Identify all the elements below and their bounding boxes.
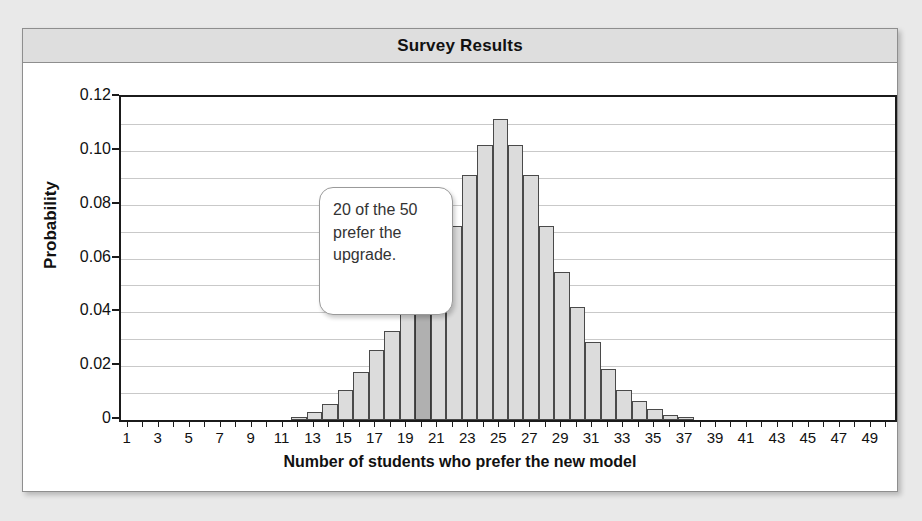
y-tick-mark: [112, 94, 119, 96]
x-tick-mark: [808, 422, 809, 427]
y-tick-mark: [112, 256, 119, 258]
bar: [678, 417, 693, 420]
bar: [647, 409, 662, 420]
x-tick-mark: [576, 422, 577, 427]
page-title: Survey Results: [397, 36, 523, 56]
chart-card: Survey Results Probability Number of stu…: [22, 28, 898, 492]
plot-area: [119, 95, 897, 422]
x-tick-mark: [638, 422, 639, 427]
x-tick-label: 13: [304, 429, 321, 446]
x-tick-mark: [297, 422, 298, 427]
y-tick-mark: [112, 202, 119, 204]
x-tick-label: 37: [676, 429, 693, 446]
bar: [570, 307, 585, 420]
x-tick-label: 49: [861, 429, 878, 446]
x-tick-mark: [142, 422, 143, 427]
bar: [616, 390, 631, 420]
x-tick-mark: [204, 422, 205, 427]
x-tick-mark: [529, 422, 530, 427]
x-tick-mark: [173, 422, 174, 427]
x-tick-mark: [328, 422, 329, 427]
x-tick-mark: [669, 422, 670, 427]
bar: [493, 119, 508, 420]
x-tick-mark: [235, 422, 236, 427]
x-tick-mark: [467, 422, 468, 427]
x-tick-mark: [251, 422, 252, 427]
bar: [632, 401, 647, 420]
bar: [663, 415, 678, 420]
x-tick-mark: [700, 422, 701, 427]
x-tick-mark: [313, 422, 314, 427]
x-tick-label: 39: [707, 429, 724, 446]
bar-highlighted: [415, 307, 430, 420]
y-tick-mark: [112, 148, 119, 150]
x-tick-label: 29: [552, 429, 569, 446]
x-tick-label: 31: [583, 429, 600, 446]
x-tick-mark: [282, 422, 283, 427]
x-tick-mark: [127, 422, 128, 427]
x-tick-mark: [343, 422, 344, 427]
x-tick-label: 21: [428, 429, 445, 446]
bar: [384, 331, 399, 420]
x-tick-mark: [622, 422, 623, 427]
x-tick-mark: [359, 422, 360, 427]
x-tick-mark: [452, 422, 453, 427]
x-tick-label: 33: [614, 429, 631, 446]
bar: [539, 226, 554, 420]
x-tick-label: 9: [246, 429, 254, 446]
y-tick-label: 0.02: [80, 355, 111, 373]
x-tick-label: 15: [335, 429, 352, 446]
x-tick-label: 35: [645, 429, 662, 446]
x-tick-label: 47: [830, 429, 847, 446]
x-tick-label: 5: [184, 429, 192, 446]
x-tick-label: 23: [459, 429, 476, 446]
x-tick-mark: [854, 422, 855, 427]
x-tick-label: 17: [366, 429, 383, 446]
gridline: [121, 97, 895, 98]
plot-wrapper: 20 of the 50 prefer the upgrade. 00.020.…: [119, 95, 897, 422]
x-tick-mark: [777, 422, 778, 427]
x-axis-title: Number of students who prefer the new mo…: [23, 453, 897, 471]
bar: [400, 307, 415, 420]
bar: [477, 145, 492, 420]
bar: [338, 390, 353, 420]
bar: [554, 272, 569, 420]
x-tick-label: 45: [800, 429, 817, 446]
x-tick-mark: [560, 422, 561, 427]
annotation-text: 20 of the 50 prefer the upgrade.: [333, 199, 439, 267]
bar: [462, 175, 477, 420]
y-tick-mark: [112, 363, 119, 365]
annotation-callout: 20 of the 50 prefer the upgrade.: [319, 187, 453, 315]
y-tick-label: 0.06: [80, 248, 111, 266]
x-tick-mark: [220, 422, 221, 427]
x-tick-mark: [653, 422, 654, 427]
bar: [601, 369, 616, 420]
x-tick-mark: [374, 422, 375, 427]
x-tick-mark: [405, 422, 406, 427]
x-tick-mark: [390, 422, 391, 427]
x-tick-mark: [498, 422, 499, 427]
x-tick-mark: [684, 422, 685, 427]
y-tick-label: 0: [102, 409, 111, 427]
x-tick-label: 3: [154, 429, 162, 446]
x-tick-mark: [591, 422, 592, 427]
bar: [585, 342, 600, 420]
x-tick-mark: [746, 422, 747, 427]
y-tick-label: 0.10: [80, 140, 111, 158]
y-tick-label: 0.12: [80, 86, 111, 104]
y-axis-title: Probability: [41, 135, 61, 315]
gridline: [121, 124, 895, 125]
x-tick-mark: [266, 422, 267, 427]
x-tick-mark: [839, 422, 840, 427]
x-tick-mark: [870, 422, 871, 427]
x-tick-mark: [189, 422, 190, 427]
x-tick-mark: [715, 422, 716, 427]
x-tick-label: 27: [521, 429, 538, 446]
x-tick-label: 41: [738, 429, 755, 446]
x-tick-mark: [823, 422, 824, 427]
y-tick-mark: [112, 417, 119, 419]
bar: [307, 412, 322, 420]
x-tick-mark: [545, 422, 546, 427]
x-tick-mark: [421, 422, 422, 427]
chart-title-band: Survey Results: [23, 29, 897, 63]
